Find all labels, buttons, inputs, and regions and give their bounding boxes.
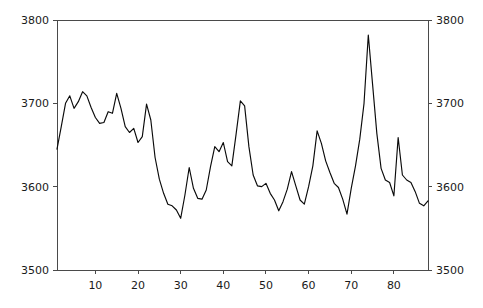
y-tick-label-right: 3500 bbox=[436, 264, 464, 277]
x-tick-label: 40 bbox=[216, 279, 230, 292]
y-tick-label-right: 3700 bbox=[436, 97, 464, 110]
x-tick-label: 10 bbox=[88, 279, 102, 292]
chart-container: 3500360037003800350036003700380010203040… bbox=[0, 0, 483, 308]
data-series-group bbox=[57, 35, 428, 218]
x-tick-label: 80 bbox=[387, 279, 401, 292]
line-chart: 3500360037003800350036003700380010203040… bbox=[0, 0, 483, 308]
x-tick-label: 60 bbox=[302, 279, 316, 292]
y-tick-label-left: 3800 bbox=[21, 14, 49, 27]
y-tick-label-left: 3600 bbox=[21, 181, 49, 194]
x-tick-label: 20 bbox=[131, 279, 145, 292]
y-tick-label-left: 3700 bbox=[21, 97, 49, 110]
y-tick-label-left: 3500 bbox=[21, 264, 49, 277]
x-tick-label: 50 bbox=[259, 279, 273, 292]
axes-group bbox=[57, 20, 428, 270]
y-tick-label-right: 3800 bbox=[436, 14, 464, 27]
x-tick-label: 70 bbox=[344, 279, 358, 292]
tick-marks-group bbox=[53, 20, 432, 274]
x-tick-label: 30 bbox=[174, 279, 188, 292]
y-tick-label-right: 3600 bbox=[436, 181, 464, 194]
data-line-series-1 bbox=[57, 35, 428, 218]
